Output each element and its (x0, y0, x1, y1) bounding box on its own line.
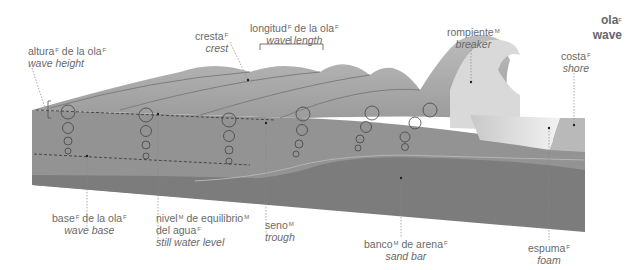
label-shore: costaF shore (561, 50, 591, 74)
label-sand-bar: bancoM de arenaF sand bar (364, 238, 448, 262)
label-trough: senoM trough (265, 219, 295, 243)
label-breaker: rompienteM breaker (447, 26, 500, 50)
label-wave-length: longitudF de la olaF wave length (250, 22, 339, 46)
diagram-title: olaF wave (593, 13, 622, 43)
label-still-water-level: nivelM de equilibrioM del aguaF still wa… (156, 212, 249, 248)
label-foam: espumaF foam (528, 242, 570, 266)
label-wave-height: alturaF de la olaF wave height (28, 45, 106, 69)
label-wave-base: baseF de la olaF wave base (52, 212, 127, 236)
title-en: wave (593, 28, 622, 42)
title-es: olaF (601, 13, 622, 27)
label-crest: crestaF crest (195, 30, 228, 54)
